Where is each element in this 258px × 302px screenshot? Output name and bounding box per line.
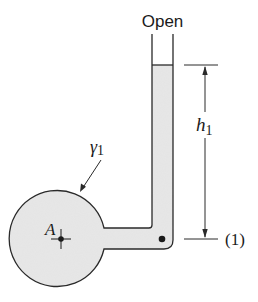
point-1-dot (159, 236, 166, 243)
height-dimension (184, 65, 218, 239)
point-a-label: A (44, 220, 56, 239)
specific-weight-label: γ1 (90, 137, 104, 158)
level-1-label: (1) (225, 230, 245, 249)
arrowhead-down-icon (202, 229, 207, 238)
gamma-leader-arrow (80, 160, 101, 192)
arrowhead-up-icon (202, 66, 207, 75)
height-label: h1 (196, 114, 213, 138)
piezometer-diagram: Open h1 γ1 A (1) (0, 0, 258, 302)
open-label: Open (142, 12, 184, 31)
